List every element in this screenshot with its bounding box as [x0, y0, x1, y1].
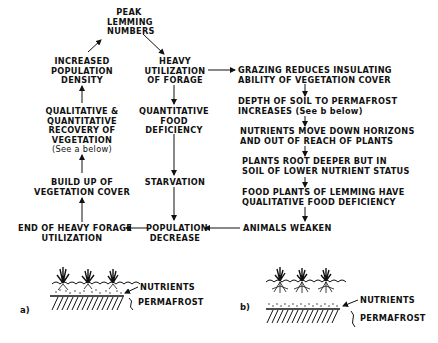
- node-starvation: STARVATION: [140, 178, 210, 188]
- node-depth-of-soil-to-permafrost: DEPTH OF SOIL TO PERMAFROST INCREASES (S…: [238, 97, 397, 116]
- node-peak-lemming-numbers: PEAK LEMMING NUMBERS: [107, 8, 151, 37]
- node-quantitative-food-deficiency: QUANTITATIVE FOOD DEFICIENCY: [134, 107, 214, 136]
- node-line: STARVATION: [140, 178, 210, 188]
- node-line: QUALITATIVE FOOD DEFICIENCY: [242, 198, 405, 208]
- node-line: DENSITY: [48, 76, 116, 86]
- panel-a-illustration: [50, 267, 140, 310]
- node-nutrients-move-down: NUTRIENTS MOVE DOWN HORIZONS AND OUT OF …: [240, 127, 415, 146]
- node-line: NUMBERS: [107, 27, 151, 37]
- node-heavy-utilization: HEAVY UTILIZATION OF FORAGE: [140, 57, 210, 86]
- node-line: ANIMALS WEAKEN: [243, 224, 332, 234]
- node-line: DECREASE: [146, 234, 204, 244]
- node-animals-weaken: ANIMALS WEAKEN: [243, 224, 332, 234]
- panel-b-illustration: [266, 267, 358, 327]
- panel-a-label: a): [20, 305, 30, 315]
- node-line: SOIL OF LOWER NUTRIENT STATUS: [242, 167, 410, 177]
- panel-a-nutrients-label: NUTRIENTS: [140, 283, 195, 293]
- node-end-heavy-forage-utilization: END OF HEAVY FORAGE UTILIZATION: [18, 224, 126, 243]
- panel-b-permafrost-label: PERMAFROST: [360, 314, 426, 324]
- node-line: VEGETATION COVER: [32, 188, 132, 198]
- node-population-decrease: POPULATION DECREASE: [146, 224, 204, 243]
- node-line: (See a below): [42, 145, 122, 155]
- node-build-up-vegetation-cover: BUILD UP OF VEGETATION COVER: [32, 178, 132, 197]
- node-grazing-reduces-insulating: GRAZING REDUCES INSULATING ABILITY OF VE…: [238, 66, 392, 85]
- node-line: ABILITY OF VEGETATION COVER: [238, 76, 392, 86]
- panel-b-label: b): [240, 302, 250, 312]
- node-line: INCREASES (See b below): [238, 107, 397, 117]
- node-line: UTILIZATION: [18, 234, 126, 244]
- node-food-plants-qualitative-deficiency: FOOD PLANTS OF LEMMING HAVE QUALITATIVE …: [242, 188, 405, 207]
- node-line: DEFICIENCY: [134, 126, 214, 136]
- panel-b-nutrients-label: NUTRIENTS: [360, 296, 415, 306]
- node-line: OF FORAGE: [140, 76, 210, 86]
- node-increased-population-density: INCREASED POPULATION DENSITY: [48, 57, 116, 86]
- node-line: AND OUT OF REACH OF PLANTS: [240, 137, 415, 147]
- node-recovery-of-vegetation: QUALITATIVE & QUANTITATIVE RECOVERY OF V…: [42, 107, 122, 155]
- panel-a-permafrost-label: PERMAFROST: [138, 298, 204, 308]
- node-plants-root-deeper: PLANTS ROOT DEEPER BUT IN SOIL OF LOWER …: [242, 157, 410, 176]
